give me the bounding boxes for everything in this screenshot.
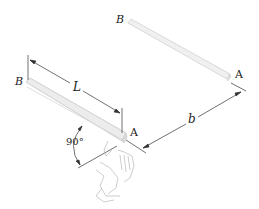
angle-label: 90° (66, 137, 84, 147)
hand-illustration (96, 141, 134, 202)
near-rod-end-b-label: B (15, 76, 23, 87)
length-dimension (28, 55, 122, 133)
far-rod-end-b-label: B (116, 14, 124, 25)
diagram-canvas (0, 0, 259, 209)
far-rod-end-a-label: A (235, 69, 243, 80)
separation-label: b (188, 113, 196, 125)
near-rod-end-a-label: A (130, 127, 138, 138)
length-label: L (73, 81, 81, 93)
separation-dimension (126, 83, 246, 153)
far-rod (128, 19, 231, 81)
